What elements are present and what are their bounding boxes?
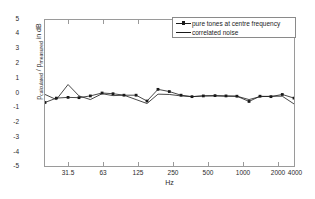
x-tick-mark [208, 162, 209, 167]
x-tick-mark [68, 162, 69, 167]
y-tick-label: 4 [0, 30, 19, 37]
y-tick-label: -4 [0, 149, 19, 156]
y-axis-title-sub1: calculated [37, 73, 43, 96]
series-pure-tones [45, 88, 294, 104]
x-tick-label: 31.5 [53, 169, 83, 176]
x-tick-mark [278, 162, 279, 167]
x-tick-mark [103, 19, 104, 24]
y-axis-title: pcalculated / pmeasured in dB [35, 0, 42, 147]
y-tick-label: 2 [0, 60, 19, 67]
data-lines [45, 20, 294, 166]
y-tick-label: -5 [0, 163, 19, 170]
x-tick-mark [173, 162, 174, 167]
x-tick-label: 63 [88, 169, 118, 176]
y-axis-title-p1: p [35, 96, 42, 100]
x-tick-label: 250 [158, 169, 188, 176]
x-tick-label: 500 [193, 169, 223, 176]
x-axis-title: Hz [44, 179, 295, 186]
legend-swatch-line-icon [175, 28, 192, 37]
x-tick-mark [68, 19, 69, 24]
x-tick-mark [138, 19, 139, 24]
legend-swatch-line-marker-icon [175, 19, 192, 28]
x-tick-mark [294, 162, 295, 167]
x-tick-mark [103, 162, 104, 167]
x-tick-mark [138, 162, 139, 167]
y-tick-label: 0 [0, 90, 19, 97]
x-tick-label: 125 [123, 169, 153, 176]
x-tick-label: 4000 [280, 169, 310, 176]
series-correlated-noise [45, 85, 294, 104]
legend-label: correlated noise [192, 28, 238, 37]
figure-canvas: 5 4 3 2 1 0 -1 -2 -3 -4 -5 [0, 0, 315, 199]
y-tick-label: 5 [0, 16, 19, 23]
x-tick-label: 1000 [228, 169, 258, 176]
legend-item-correlated-noise: correlated noise [175, 28, 295, 37]
legend-item-pure-tones: pure tones at centre frequency [175, 19, 295, 28]
y-axis-title-sub2: measured [37, 41, 43, 63]
y-axis-title-tail: in dB [35, 23, 42, 41]
y-tick-label: 3 [0, 45, 19, 52]
legend-label: pure tones at centre frequency [192, 19, 280, 28]
legend: pure tones at centre frequency correlate… [172, 17, 296, 38]
y-tick-label: -1 [0, 104, 19, 111]
y-tick-label: 1 [0, 75, 19, 82]
y-tick-label: -3 [0, 134, 19, 141]
x-tick-mark [243, 162, 244, 167]
y-tick-label: -2 [0, 119, 19, 126]
y-axis-title-mid: / p [35, 64, 42, 74]
plot-area [44, 19, 295, 167]
